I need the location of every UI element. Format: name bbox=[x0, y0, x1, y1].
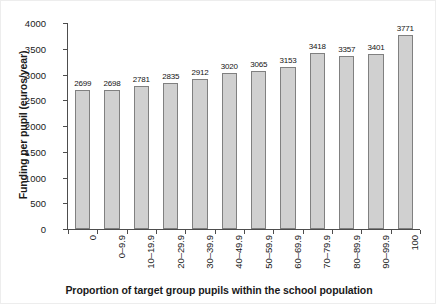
x-tick-mark bbox=[215, 230, 216, 234]
y-tick-label: 1000 bbox=[6, 172, 46, 183]
y-tick-mark bbox=[63, 152, 68, 153]
y-tick-label: 500 bbox=[6, 198, 46, 209]
bar bbox=[163, 83, 178, 229]
y-tick-label: 1500 bbox=[6, 146, 46, 157]
bar-value-label: 3020 bbox=[221, 62, 238, 71]
x-category-label: 100 bbox=[409, 235, 420, 251]
y-tick-mark bbox=[63, 178, 68, 179]
x-category-label: 20–29.9 bbox=[175, 235, 186, 269]
x-category-label: 60–69.9 bbox=[292, 235, 303, 269]
x-tick-mark bbox=[68, 230, 69, 234]
bar-value-label: 2835 bbox=[162, 72, 179, 81]
x-category-label: 50–59.9 bbox=[263, 235, 274, 269]
bar bbox=[280, 67, 295, 229]
y-tick-label: 3000 bbox=[6, 69, 46, 80]
x-category-label: 30–39.9 bbox=[204, 235, 215, 269]
y-tick-label: 0 bbox=[6, 224, 46, 235]
x-category-label: 10–19.9 bbox=[145, 235, 156, 269]
x-tick-mark bbox=[97, 230, 98, 234]
bar bbox=[222, 73, 237, 229]
x-tick-mark bbox=[127, 230, 128, 234]
bar-value-label: 3065 bbox=[250, 60, 267, 69]
bar-value-label: 3771 bbox=[397, 24, 414, 33]
y-tick-mark bbox=[63, 126, 68, 127]
bar-value-label: 2699 bbox=[74, 79, 91, 88]
x-tick-mark bbox=[420, 230, 421, 234]
x-category-label: 0 bbox=[87, 235, 98, 240]
x-axis-title: Proportion of target group pupils within… bbox=[1, 284, 436, 296]
x-tick-mark bbox=[244, 230, 245, 234]
y-tick-label: 4000 bbox=[6, 18, 46, 29]
x-tick-mark bbox=[361, 230, 362, 234]
bar-value-label: 2912 bbox=[192, 68, 209, 77]
x-category-label: 0–9.9 bbox=[116, 235, 127, 258]
bar bbox=[310, 53, 325, 229]
y-tick-mark bbox=[63, 75, 68, 76]
x-category-label: 80–89.9 bbox=[351, 235, 362, 269]
bar bbox=[134, 86, 149, 229]
x-tick-mark bbox=[303, 230, 304, 234]
bar-value-label: 2781 bbox=[133, 75, 150, 84]
bar-value-label: 2698 bbox=[104, 79, 121, 88]
x-tick-mark bbox=[391, 230, 392, 234]
y-tick-mark bbox=[63, 100, 68, 101]
x-tick-mark bbox=[185, 230, 186, 234]
bar-value-label: 3418 bbox=[309, 42, 326, 51]
bar bbox=[75, 90, 90, 229]
bar bbox=[104, 90, 119, 229]
x-tick-mark bbox=[156, 230, 157, 234]
y-tick-label: 3500 bbox=[6, 43, 46, 54]
bar bbox=[339, 56, 354, 229]
x-category-label: 40–49.9 bbox=[233, 235, 244, 269]
chart-figure: Funding per pupil (euros/year) 050010001… bbox=[0, 0, 436, 304]
bar-value-label: 3153 bbox=[280, 56, 297, 65]
y-tick-label: 2500 bbox=[6, 95, 46, 106]
y-tick-mark bbox=[63, 203, 68, 204]
x-tick-mark bbox=[332, 230, 333, 234]
bar-value-label: 3401 bbox=[368, 43, 385, 52]
bar bbox=[192, 79, 207, 229]
x-tick-mark bbox=[273, 230, 274, 234]
bar bbox=[368, 54, 383, 229]
bar-value-label: 3357 bbox=[338, 45, 355, 54]
bar bbox=[398, 35, 413, 229]
y-tick-mark bbox=[63, 23, 68, 24]
bar bbox=[251, 71, 266, 229]
plot-area: 05001000150020002500300035004000 2699269… bbox=[68, 23, 420, 229]
x-category-label: 70–79.9 bbox=[321, 235, 332, 269]
y-tick-mark bbox=[63, 49, 68, 50]
x-category-label: 90–99.9 bbox=[380, 235, 391, 269]
y-tick-label: 2000 bbox=[6, 121, 46, 132]
